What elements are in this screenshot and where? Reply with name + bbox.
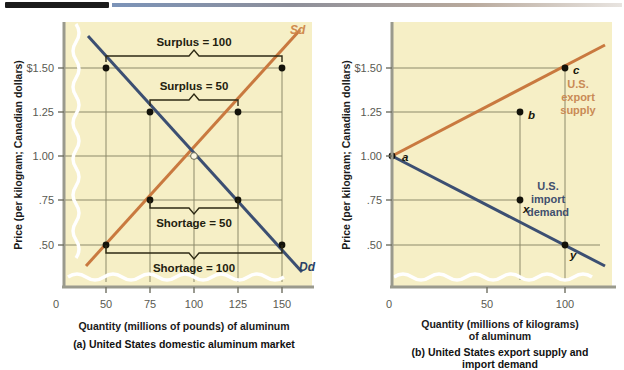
panel-b-x-axis-title-line1: Quantity (millions of kilograms) [421,318,579,330]
panel-b-point-label-a: a [402,151,409,163]
panel-b-xtick-50: 50 [481,298,493,310]
top-dark-bar [5,2,109,8]
panel-a-annotation-shortage-100: Shortage = 100 [153,262,235,274]
panel-b-point-label-b: b [528,109,535,121]
panel-b-export-supply-label-line1: U.S. [567,78,588,90]
panel-a-origin-label: 0 [53,298,59,310]
panel-a-ytick-150: $1.50 [26,62,54,74]
panel-a-annotation-shortage-50: Shortage = 50 [156,217,232,229]
panel-a-ytick-050: .50 [39,239,54,251]
panel-a-caption: (a) United States domestic aluminum mark… [73,338,295,350]
panel-b-ytick-075: .75 [367,194,382,206]
panel-b-y-axis-title: Price (per kilogram; Canadian dollars) [340,60,352,250]
marker-s-125-at-1.25 [235,109,242,116]
panel-b-export-supply-label-line2: export [561,91,595,103]
panel-a-annotation-surplus-100: Surplus = 100 [156,36,231,48]
marker-d-75-at-1.25 [147,109,154,116]
figure-container: Sd Dd Surplus = 100 Surplus = 50 Shortag… [0,0,624,370]
top-gradient-strip [112,3,622,7]
panel-b-caption-line1: (b) United States export supply and [412,346,589,358]
marker-s-150-at-1.50 [279,65,286,72]
panel-a-xtick-150: 150 [273,298,291,310]
panel-b-export-supply-label-line3: supply [560,104,596,116]
panel-b-import-demand-label-line1: U.S. [537,180,558,192]
panel-b-marker-y [562,242,569,249]
panel-b-ytick-100: 1.00 [361,150,382,162]
panel-a-equilibrium-marker [191,153,198,160]
panel-b-marker-b [517,109,524,116]
panel-b-import-demand-label-line3: demand [527,206,569,218]
panel-b-origin-label: 0 [386,298,392,310]
panel-a-supply-curve-label: Sd [290,23,306,37]
panel-b-ytick-050: .50 [367,239,382,251]
panel-b-point-label-y: y [569,249,577,261]
panel-a-demand-curve-label: Dd [299,260,316,274]
panel-b-xtick-100: 100 [556,298,574,310]
panel-a-x-axis-title: Quantity (millions of pounds) of aluminu… [78,320,289,332]
marker-d-150-at-1.50 [103,65,110,72]
panel-a-ytick-100: 1.00 [33,150,54,162]
panel-a-xtick-50: 50 [100,298,112,310]
panel-a-y-axis-title: Price (per kilogram; Canadian dollars) [12,60,24,250]
panel-b-x-axis-title-line2: of aluminum [469,330,531,342]
economics-figure-svg: Sd Dd Surplus = 100 Surplus = 50 Shortag… [0,0,624,370]
panel-b-point-label-c: c [573,64,580,76]
panel-a-ytick-125: 1.25 [33,106,54,118]
panel-b-caption-line2: import demand [462,358,538,370]
panel-a-xtick-75: 75 [144,298,156,310]
panel-b-import-demand-label-line2: import [531,193,566,205]
panel-b-marker-c [562,65,569,72]
panel-a-xtick-125: 125 [229,298,247,310]
panel-a-xtick-100: 100 [185,298,203,310]
panel-b-ytick-125: 1.25 [361,106,382,118]
panel-a-ytick-075: .75 [39,194,54,206]
panel-b-plot-background [392,22,612,286]
panel-b-ytick-150: $1.50 [354,62,382,74]
panel-a-annotation-surplus-50: Surplus = 50 [160,80,229,92]
